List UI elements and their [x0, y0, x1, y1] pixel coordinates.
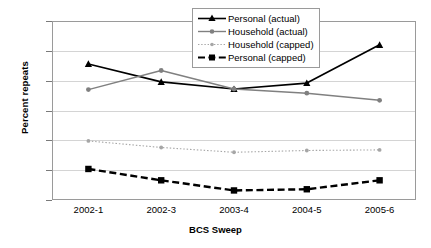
legend-key-household-capped — [197, 38, 227, 51]
data-point — [159, 146, 163, 150]
series-personal-capped — [85, 166, 383, 194]
chart-legend: Personal (actual) Household (actual) Hou… — [192, 8, 320, 68]
data-point — [232, 87, 237, 92]
data-point — [305, 149, 309, 153]
legend-item: Household (actual) — [197, 25, 314, 38]
data-point — [378, 148, 382, 152]
data-point — [232, 150, 236, 154]
data-point — [377, 98, 382, 103]
legend-key-personal-actual — [197, 12, 227, 25]
series-household-capped — [87, 139, 382, 154]
series-line — [88, 169, 379, 190]
data-point — [376, 177, 382, 183]
legend-label: Household (capped) — [227, 38, 314, 51]
data-point — [159, 68, 164, 73]
line-chart: Percent repeats 60555045403530 2002-1200… — [0, 0, 431, 248]
data-point — [87, 139, 91, 143]
data-point — [304, 186, 310, 192]
data-point — [86, 87, 91, 92]
data-point — [85, 166, 91, 172]
data-point — [85, 60, 92, 67]
legend-label: Personal (actual) — [227, 12, 300, 25]
data-point — [231, 187, 237, 193]
legend-item: Household (capped) — [197, 38, 314, 51]
data-point — [158, 177, 164, 183]
legend-item: Personal (capped) — [197, 51, 314, 64]
data-point — [304, 91, 309, 96]
legend-key-personal-capped — [197, 51, 227, 64]
legend-item: Personal (actual) — [197, 12, 314, 25]
legend-key-household-actual — [197, 25, 227, 38]
legend-label: Personal (capped) — [227, 51, 306, 64]
data-point — [376, 41, 383, 48]
legend-label: Household (actual) — [227, 25, 308, 38]
